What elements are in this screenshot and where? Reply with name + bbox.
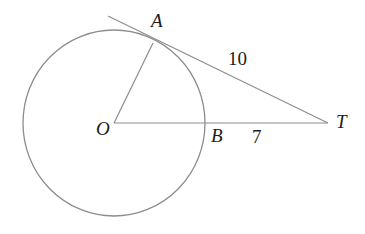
point-label-o: O bbox=[96, 119, 110, 138]
segment-OA-radius bbox=[114, 43, 153, 123]
measure-label-bt: 7 bbox=[252, 127, 262, 146]
point-label-a: A bbox=[151, 11, 163, 30]
point-label-t: T bbox=[336, 112, 347, 131]
tangent-line-AT bbox=[108, 16, 328, 123]
point-label-b: B bbox=[211, 126, 223, 145]
measure-label-at: 10 bbox=[228, 49, 247, 68]
geometry-figure: A O B T 10 7 bbox=[0, 0, 365, 234]
geometry-canvas bbox=[0, 0, 365, 234]
